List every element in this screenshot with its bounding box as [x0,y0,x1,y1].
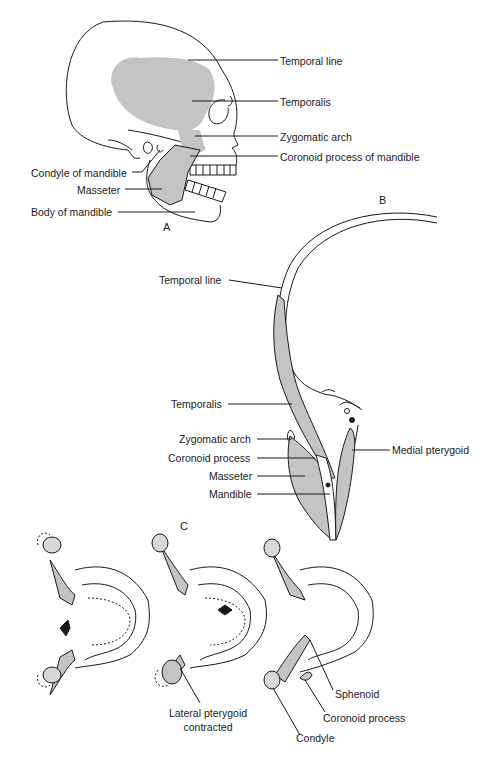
mandible-view-3 [264,539,373,689]
label-a-temporalis: Temporalis [280,96,331,108]
label-b-mandible: Mandible [209,488,252,500]
label-a-coronoid-process: Coronoid process of mandible [280,151,420,163]
label-b-zygomatic-arch: Zygomatic arch [179,433,251,445]
label-a-zygomatic-arch: Zygomatic arch [280,131,352,143]
label-b-medial-pterygoid: Medial pterygoid [392,444,469,456]
label-a-body-of-mandible: Body of mandible [31,206,112,218]
label-c-lateral-pterygoid: Lateral pterygoid contracted [166,707,250,733]
coronal-section-drawing [278,213,438,470]
label-b-coronoid-process: Coronoid process [168,452,250,464]
label-a-masseter: Masseter [77,184,120,196]
mandible-view-1 [37,533,149,695]
label-a-temporal-line: Temporal line [280,55,342,67]
label-c-lateral-pterygoid-line2: contracted [166,721,250,733]
label-b-temporalis: Temporalis [171,398,222,410]
medial-pterygoid-section [336,428,355,540]
anatomy-diagram [0,0,499,782]
label-c-lateral-pterygoid-line1: Lateral pterygoid [166,707,250,719]
panel-label-a: A [163,221,170,233]
label-c-condyle: Condyle [296,732,335,744]
label-c-coronoid-process: Coronoid process [323,712,405,724]
label-b-masseter: Masseter [209,470,252,482]
temporalis-muscle [111,57,214,130]
panel-label-b: B [379,194,386,206]
label-c-sphenoid: Sphenoid [335,688,379,700]
label-b-temporal-line: Temporal line [159,274,221,286]
panel-label-c: C [180,520,188,532]
mandible-view-2 [152,534,266,686]
label-a-condyle: Condyle of mandible [31,167,127,179]
